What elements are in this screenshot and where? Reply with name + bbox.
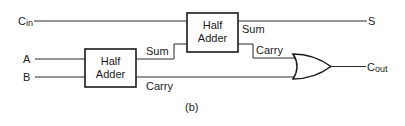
ha2-carry-wire: Carry xyxy=(238,44,297,58)
ha2-sum-label: Sum xyxy=(242,23,265,35)
ha1-carry-label: Carry xyxy=(146,80,173,92)
ha1-carry-wire: Carry xyxy=(136,77,297,92)
input-cin: Cin xyxy=(18,15,187,28)
b-label: B xyxy=(23,71,30,83)
half-adder-2-line1: Half xyxy=(203,19,224,31)
half-adder-1-line2: Adder xyxy=(96,68,126,80)
full-adder-diagram: Cin A B Half Adder Sum Carry Half Adder … xyxy=(0,0,405,126)
ha2-sum-wire: Sum S xyxy=(238,15,375,35)
or-gate xyxy=(293,54,331,79)
s-output-label: S xyxy=(368,15,375,27)
ha2-carry-label: Carry xyxy=(256,44,283,56)
half-adder-1: Half Adder xyxy=(85,49,136,87)
half-adder-2-line2: Adder xyxy=(198,32,228,44)
cout-label: Cout xyxy=(367,61,388,74)
cin-label: Cin xyxy=(18,15,33,28)
figure-caption: (b) xyxy=(185,101,198,113)
a-label: A xyxy=(23,53,31,65)
circuit-svg: Cin A B Half Adder Sum Carry Half Adder … xyxy=(0,0,405,126)
output-cout: Cout xyxy=(331,61,388,74)
or-gate-symbol xyxy=(293,54,331,79)
ha1-sum-wire: Sum xyxy=(136,44,187,59)
half-adder-2: Half Adder xyxy=(187,13,238,52)
ha1-sum-label: Sum xyxy=(146,45,169,57)
input-b: B xyxy=(23,71,85,83)
input-a: A xyxy=(23,53,85,65)
half-adder-1-line1: Half xyxy=(101,55,122,67)
